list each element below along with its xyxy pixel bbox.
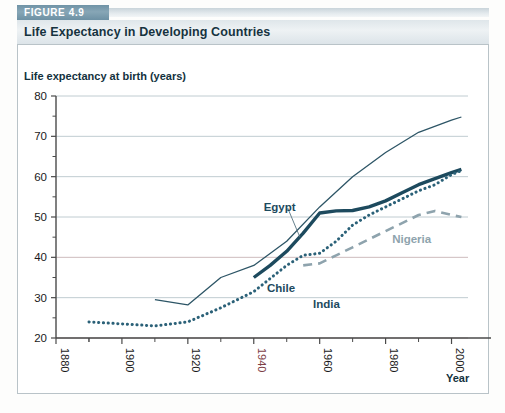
svg-text:1980: 1980 <box>388 348 400 372</box>
series-line-india <box>89 171 461 326</box>
figure-page: FIGURE 4.9 Life Expectancy in Developing… <box>0 0 505 413</box>
svg-text:1880: 1880 <box>59 348 71 372</box>
label-nigeria: Nigeria <box>392 233 432 245</box>
svg-text:60: 60 <box>34 171 47 183</box>
line-chart: 20304050607080 1880190019201940196019802… <box>0 0 505 413</box>
series-line-chile <box>155 117 462 305</box>
x-axis-ticks: 1880190019201940196019802000 <box>56 338 466 372</box>
svg-text:1900: 1900 <box>124 348 136 372</box>
data-series <box>89 117 461 326</box>
gridlines <box>56 96 468 338</box>
svg-text:1920: 1920 <box>190 348 202 372</box>
label-chile: Chile <box>267 282 295 294</box>
svg-text:30: 30 <box>34 292 47 304</box>
svg-text:70: 70 <box>34 130 47 142</box>
svg-text:20: 20 <box>34 332 47 344</box>
label-egypt: Egypt <box>264 201 296 213</box>
svg-text:40: 40 <box>34 251 47 263</box>
svg-text:1940: 1940 <box>256 348 268 372</box>
svg-text:2000: 2000 <box>454 348 466 372</box>
svg-text:1960: 1960 <box>322 348 334 372</box>
svg-text:80: 80 <box>34 90 47 102</box>
label-india: India <box>313 298 340 310</box>
svg-text:50: 50 <box>34 211 47 223</box>
y-axis-ticks: 20304050607080 <box>34 90 56 344</box>
